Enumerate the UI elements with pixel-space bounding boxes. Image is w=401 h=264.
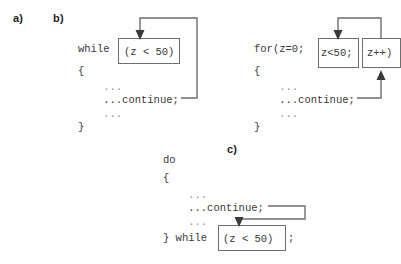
for-body-ellipsis-2: ... <box>254 109 298 120</box>
do-keyword: do <box>163 155 176 166</box>
for-open-brace: { <box>254 66 260 77</box>
for-close-brace: } <box>254 122 260 133</box>
do-while-condition-text: (z < 50) <box>223 233 273 245</box>
for-continue-arrow-path <box>357 78 381 98</box>
while-body-ellipsis-1: ... <box>78 82 122 93</box>
for-increment-to-condition-path <box>338 18 381 38</box>
part-label-a: a) <box>13 12 23 24</box>
for-keyword-init: for(z=0; <box>254 44 311 55</box>
for-continue-arrowhead <box>377 70 386 80</box>
part-label-c: c) <box>227 143 237 155</box>
do-body-ellipsis-1: ... <box>163 190 207 201</box>
while-body-ellipsis-2: ... <box>78 109 122 120</box>
while-condition-text: (z < 50) <box>124 46 174 58</box>
do-while-semicolon: ; <box>288 233 294 244</box>
do-open-brace: { <box>163 173 169 184</box>
do-while-tail: } while <box>163 233 213 244</box>
do-continue-statement: ...continue; <box>163 203 264 214</box>
for-body-ellipsis-1: ... <box>254 82 298 93</box>
while-close-brace: } <box>78 122 84 133</box>
for-condition-text: z<50; <box>321 47 353 59</box>
while-continue-statement: ...continue; <box>78 95 179 106</box>
part-label-b: b) <box>53 12 64 24</box>
for-continue-statement: ...continue; <box>254 95 355 106</box>
do-body-ellipsis-2: ... <box>163 217 207 228</box>
for-increment-text: z++) <box>367 47 392 59</box>
while-open-brace: { <box>78 66 84 77</box>
while-keyword: while <box>78 44 116 55</box>
